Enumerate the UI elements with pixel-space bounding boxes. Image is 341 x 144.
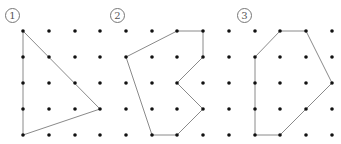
grid-dot xyxy=(253,55,257,59)
grid-dot xyxy=(47,107,51,111)
grid-dot xyxy=(330,107,334,111)
grid-dot xyxy=(304,81,308,85)
grid-dot xyxy=(21,133,25,137)
grid-dot xyxy=(227,29,231,33)
grid-dot xyxy=(227,81,231,85)
grid-dot xyxy=(304,29,308,33)
grid-dot xyxy=(278,133,282,137)
grid-dot xyxy=(253,107,257,111)
grid-dot xyxy=(124,107,128,111)
grid-dot xyxy=(330,29,334,33)
grid-dot xyxy=(21,81,25,85)
grid-dot xyxy=(73,29,77,33)
grid-dot xyxy=(278,29,282,33)
grid-dot xyxy=(124,55,128,59)
grid-dot xyxy=(98,107,102,111)
grid-dot xyxy=(150,81,154,85)
grid-dot xyxy=(278,107,282,111)
grid-dot xyxy=(330,55,334,59)
grid-dot xyxy=(98,81,102,85)
grid-dot xyxy=(175,55,179,59)
grid-dot xyxy=(47,81,51,85)
figure-1-label: 1 xyxy=(5,8,20,23)
grid-dot xyxy=(47,29,51,33)
grid-dot xyxy=(73,133,77,137)
figure-3-label: 3 xyxy=(237,8,252,23)
grid-dot xyxy=(98,29,102,33)
grid-dot xyxy=(253,81,257,85)
grid-dot xyxy=(73,81,77,85)
dot-grid-figures: 1 2 3 xyxy=(0,0,341,144)
grid-dot xyxy=(124,29,128,33)
grid-dot xyxy=(304,107,308,111)
grid-dot xyxy=(304,133,308,137)
grid-dot xyxy=(304,55,308,59)
grid-dot xyxy=(253,133,257,137)
grid-dot xyxy=(124,81,128,85)
grid-dot xyxy=(201,81,205,85)
grid-dot xyxy=(47,55,51,59)
grid-dot xyxy=(47,133,51,137)
grid-dot xyxy=(21,55,25,59)
grid-dot xyxy=(201,29,205,33)
grid-dot xyxy=(201,55,205,59)
grid-dot xyxy=(175,107,179,111)
grid-dot xyxy=(98,55,102,59)
grid-dot xyxy=(278,55,282,59)
grid-dot xyxy=(175,81,179,85)
grid-dot xyxy=(175,29,179,33)
grid-dot xyxy=(330,133,334,137)
grid-dot xyxy=(330,81,334,85)
grid-dot xyxy=(73,55,77,59)
grid-dot xyxy=(21,107,25,111)
grid-dot xyxy=(201,133,205,137)
figure-1-polygon xyxy=(23,31,100,135)
grid-dot xyxy=(150,29,154,33)
grid-dot xyxy=(73,107,77,111)
dot-grid-canvas xyxy=(0,0,341,144)
grid-dot xyxy=(150,55,154,59)
grid-dot xyxy=(150,133,154,137)
grid-dot xyxy=(227,55,231,59)
figure-3-polygon xyxy=(255,31,332,135)
grid-dot xyxy=(278,81,282,85)
grid-dot xyxy=(124,133,128,137)
grid-dot xyxy=(201,107,205,111)
grid-dot xyxy=(227,133,231,137)
grid-dot xyxy=(175,133,179,137)
grid-dot xyxy=(150,107,154,111)
grid-dot xyxy=(21,29,25,33)
grid-dot xyxy=(253,29,257,33)
grid-dot xyxy=(98,133,102,137)
grid-dot xyxy=(227,107,231,111)
figure-2-polygon xyxy=(126,31,203,135)
figure-2-label: 2 xyxy=(110,8,125,23)
